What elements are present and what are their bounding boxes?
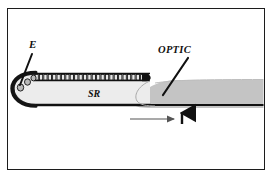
epithelium-cell-row <box>35 74 148 80</box>
optic-wedge-shape <box>135 80 264 108</box>
label-e: E <box>28 38 36 50</box>
label-sr: SR <box>88 88 101 99</box>
epithelium-right-cap <box>142 73 151 81</box>
label-optic: OPTIC <box>158 44 192 55</box>
diagram-canvas: E OPTIC SR <box>0 0 274 181</box>
figure-root: E OPTIC SR <box>0 0 274 181</box>
